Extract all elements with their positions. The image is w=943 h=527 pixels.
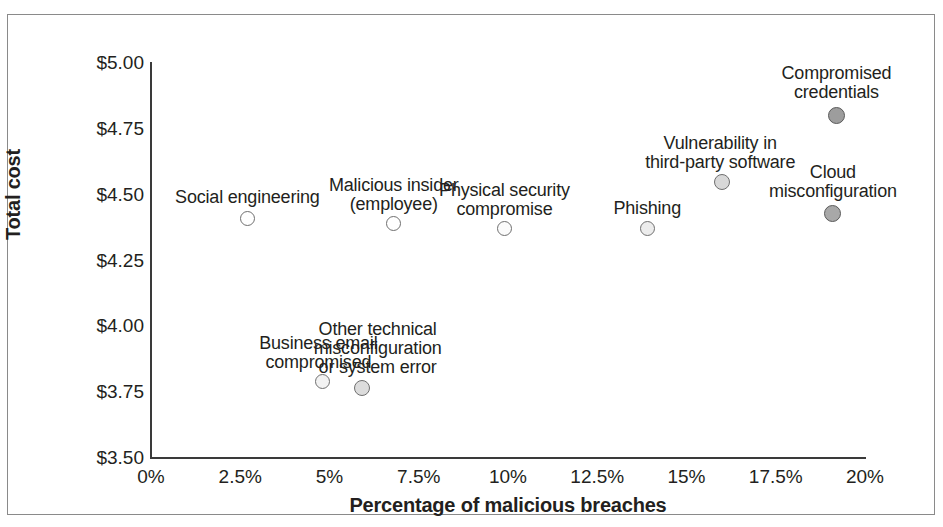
x-tick-label: 5% — [285, 467, 375, 487]
x-tick-label: 12.5% — [552, 467, 642, 487]
x-tick-label: 0% — [106, 467, 196, 487]
data-point-marker[interactable] — [497, 221, 512, 236]
y-tick-label: $4.75 — [8, 119, 144, 138]
x-tick-label: 20% — [820, 467, 910, 487]
x-tick-label: 2.5% — [195, 467, 285, 487]
data-point-label: Compromised credentials — [706, 64, 943, 102]
data-point-label: Cloud misconfiguration — [703, 163, 943, 201]
x-tick-label: 15% — [642, 467, 732, 487]
y-tick-label: $3.75 — [8, 382, 144, 401]
plot-area: Social engineeringMalicious insider (emp… — [151, 63, 865, 458]
y-tick-label: $4.25 — [8, 251, 144, 270]
x-tick-label: 10% — [463, 467, 553, 487]
x-tick-label: 7.5% — [374, 467, 464, 487]
data-point-marker[interactable] — [240, 211, 255, 226]
chart-frame: Total cost Percentage of malicious breac… — [7, 14, 935, 515]
data-point-marker[interactable] — [824, 205, 841, 222]
data-point-marker[interactable] — [354, 380, 370, 396]
scatter-chart-figure: Total cost Percentage of malicious breac… — [0, 0, 943, 527]
y-tick-label: $5.00 — [8, 53, 144, 72]
data-point-label: Phishing — [517, 199, 777, 218]
x-axis-title: Percentage of malicious breaches — [151, 494, 865, 517]
x-tick-label: 17.5% — [731, 467, 821, 487]
data-point-marker[interactable] — [828, 107, 845, 124]
y-tick-label: $3.50 — [8, 448, 144, 467]
data-point-label: Other technical misconfiguration or syst… — [248, 320, 508, 377]
y-tick-label: $4.00 — [8, 316, 144, 335]
data-point-marker[interactable] — [640, 221, 655, 236]
